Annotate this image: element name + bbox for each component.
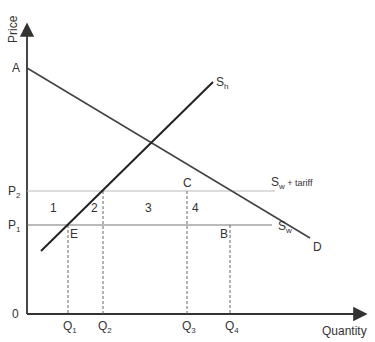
- point-e-label: E: [70, 227, 78, 241]
- q3-label: Q3: [182, 319, 196, 335]
- q4-label: Q4: [225, 319, 239, 335]
- demand-label: D: [313, 240, 322, 254]
- q1-label: Q1: [63, 319, 77, 335]
- sw-label: Sw: [278, 219, 292, 235]
- point-a-label: A: [12, 61, 20, 75]
- y-axis-label: Price: [6, 15, 20, 43]
- domestic-supply-curve: [41, 82, 213, 251]
- sw-tariff-label: Sw + tariff: [271, 175, 313, 191]
- point-c-label: C: [183, 176, 192, 190]
- region-2-label: 2: [91, 201, 98, 215]
- tariff-diagram: Price Quantity 0 A C B E D Sh Sw + tarif…: [0, 0, 375, 342]
- sh-label: Sh: [216, 75, 228, 91]
- region-3-label: 3: [145, 201, 152, 215]
- point-b-label: B: [220, 227, 228, 241]
- origin-label: 0: [12, 307, 19, 321]
- region-4-label: 4: [192, 201, 199, 215]
- p2-label: P2: [8, 184, 21, 200]
- q2-label: Q2: [98, 319, 112, 335]
- x-axis-label: Quantity: [322, 324, 367, 338]
- demand-curve: [27, 68, 310, 238]
- region-1-label: 1: [50, 201, 57, 215]
- p1-label: P1: [8, 218, 21, 234]
